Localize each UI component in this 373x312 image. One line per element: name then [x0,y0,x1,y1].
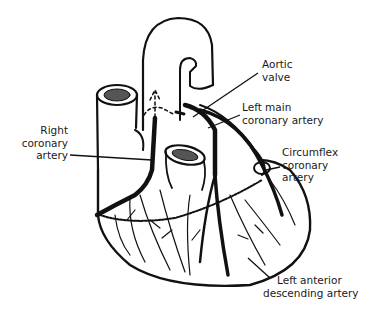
label-aortic-valve: Aortic valve [262,58,293,83]
label-aortic-valve-line1: Aortic [262,58,293,71]
label-lad-line1: Left anterior [263,274,359,287]
label-left-main-line1: Left main [242,101,324,114]
leader-circumflex [266,167,280,170]
label-circumflex-line2: coronary [282,159,338,172]
label-lad: Left anterior descending artery [263,274,359,299]
label-left-main: Left main coronary artery [242,101,324,126]
leader-right-coronary [70,155,152,160]
label-circumflex: Circumflex coronary artery [282,146,338,184]
right-coronary-artery [97,118,155,215]
label-right-coronary: Right coronary artery [20,124,68,162]
label-aortic-valve-line2: valve [262,71,293,84]
label-right-coronary-line2: coronary [20,137,68,150]
label-right-coronary-line3: artery [20,149,68,162]
label-circumflex-line3: artery [282,171,338,184]
label-lad-line2: descending artery [263,287,359,300]
label-circumflex-line1: Circumflex [282,146,338,159]
label-left-main-line2: coronary artery [242,114,324,127]
lad-artery [215,175,228,275]
label-right-coronary-line1: Right [20,124,68,137]
